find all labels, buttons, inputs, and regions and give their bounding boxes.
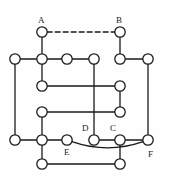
graph-figure: ABEDCF	[0, 0, 169, 189]
graph-node-n_r4c4[interactable]	[115, 107, 125, 117]
graph-node-E[interactable]	[62, 135, 72, 145]
graph-edge-n_E-n_F	[72, 142, 143, 148]
graph-node-n_r2c4[interactable]	[115, 54, 125, 64]
node-label-D: D	[82, 124, 89, 133]
node-label-F: F	[148, 150, 153, 159]
graph-node-n_r2c0[interactable]	[10, 54, 20, 64]
graph-node-n_r2c1[interactable]	[37, 54, 47, 64]
node-label-B: B	[116, 16, 122, 25]
node-label-E: E	[64, 148, 70, 157]
graph-canvas	[0, 0, 169, 189]
edge-layer	[15, 32, 148, 164]
node-layer	[10, 27, 153, 169]
graph-node-C[interactable]	[115, 135, 125, 145]
graph-node-n_r6c4[interactable]	[115, 159, 125, 169]
graph-node-F[interactable]	[143, 135, 153, 145]
graph-node-n_r5c0[interactable]	[10, 135, 20, 145]
graph-node-n_r3c4[interactable]	[115, 81, 125, 91]
graph-node-B[interactable]	[115, 27, 125, 37]
graph-node-n_r2c5[interactable]	[143, 54, 153, 64]
graph-node-n_r2c2[interactable]	[62, 54, 72, 64]
graph-node-n_r5c1[interactable]	[37, 135, 47, 145]
graph-node-n_r3c1[interactable]	[37, 81, 47, 91]
graph-node-n_r4c1[interactable]	[37, 107, 47, 117]
graph-node-D[interactable]	[89, 135, 99, 145]
node-label-A: A	[38, 16, 45, 25]
graph-node-n_r6c1[interactable]	[37, 159, 47, 169]
graph-node-n_r2c3[interactable]	[89, 54, 99, 64]
node-label-C: C	[110, 124, 116, 133]
graph-node-A[interactable]	[37, 27, 47, 37]
